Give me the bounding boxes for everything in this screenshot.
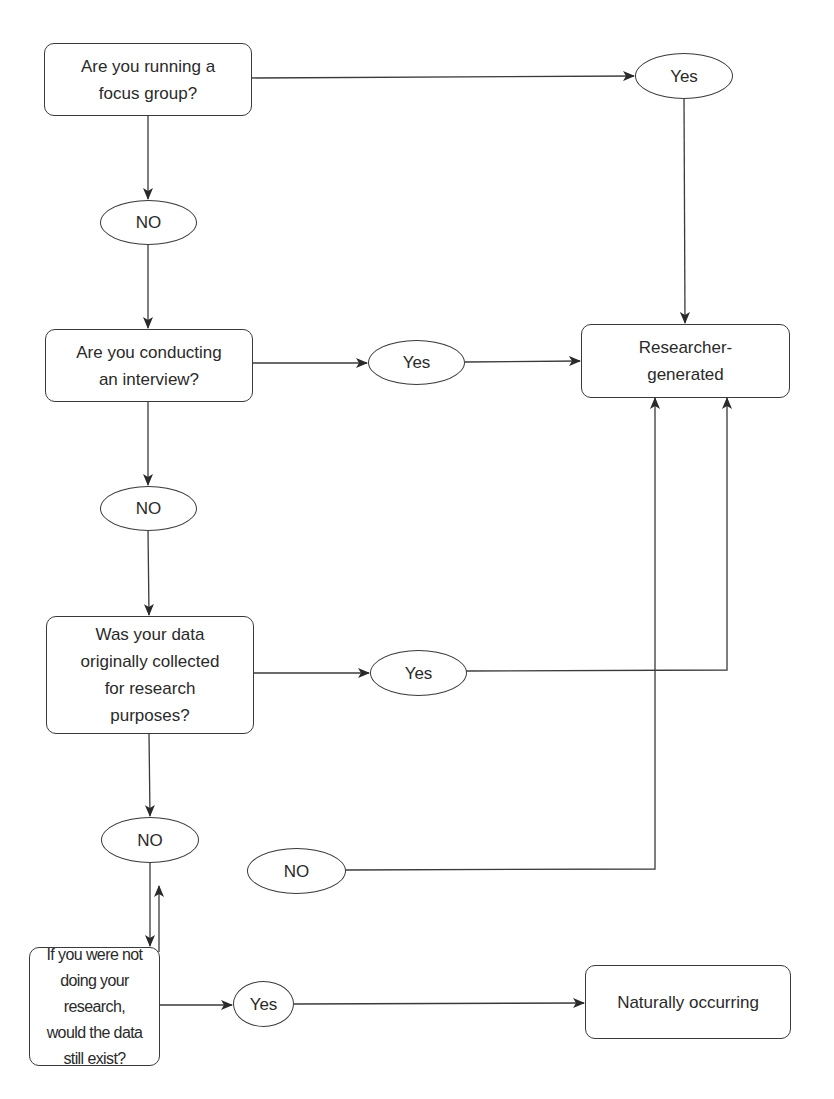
outcome-naturally-occurring: Naturally occurring — [585, 965, 791, 1039]
question-interview: Are you conducting an interview? — [45, 329, 253, 402]
answer-no-focus-group: NO — [100, 200, 197, 245]
question-research-purposes-label: Was your data originally collected for r… — [81, 621, 220, 729]
edge-yes2-researcher — [465, 361, 580, 362]
answer-no-interview: NO — [100, 486, 197, 531]
question-interview-label: Are you conducting an interview? — [76, 339, 222, 393]
answer-yes-focus-group: Yes — [635, 53, 733, 99]
outcome-researcher-generated-label: Researcher- generated — [639, 334, 733, 388]
answer-yes-label: Yes — [250, 991, 278, 1018]
outcome-researcher-generated: Researcher- generated — [581, 324, 790, 398]
answer-no-label: NO — [137, 827, 163, 854]
answer-yes-research-purposes: Yes — [370, 650, 467, 696]
question-research-purposes: Was your data originally collected for r… — [46, 616, 254, 734]
answer-yes-label: Yes — [670, 63, 698, 90]
answer-no-label: NO — [284, 858, 310, 885]
answer-no-label: NO — [136, 495, 162, 522]
question-data-still-exist-label: If you were not doing your research, wou… — [30, 942, 159, 1072]
edge-yes1-researcher — [684, 97, 685, 323]
answer-yes-label: Yes — [403, 349, 431, 376]
outcome-naturally-occurring-label: Naturally occurring — [617, 989, 759, 1016]
answer-yes-data-exist: Yes — [233, 981, 294, 1027]
edge-yes4-natural — [294, 1003, 584, 1004]
edge-q3-no3 — [149, 733, 150, 816]
edge-no4-researcher — [345, 398, 655, 870]
edge-no2-q3 — [148, 530, 149, 615]
connector-layer — [0, 0, 834, 1099]
answer-yes-interview: Yes — [368, 340, 465, 385]
answer-yes-label: Yes — [405, 660, 433, 687]
answer-no-data-exist: NO — [247, 848, 346, 894]
answer-no-label: NO — [136, 209, 162, 236]
question-focus-group-label: Are you running a focus group? — [81, 53, 215, 107]
question-data-still-exist: If you were not doing your research, wou… — [29, 947, 160, 1066]
answer-no-research-purposes: NO — [101, 817, 199, 863]
question-focus-group: Are you running a focus group? — [44, 43, 252, 116]
edge-q1-yes1 — [251, 76, 634, 78]
edge-yes3-researcher — [466, 398, 727, 671]
